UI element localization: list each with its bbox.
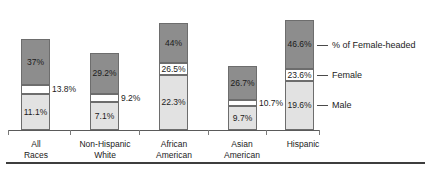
stacked-bar-chart: 37% 11.1% 13.8% 29.2% 7.1% 9.2% 44% 26.5… [0, 0, 431, 171]
x-axis-label-asian-american: Asian American [211, 139, 273, 161]
bar-segment-female-headed: 26.7% [228, 66, 257, 100]
axis-tick [266, 130, 267, 135]
legend-leader-line-female [317, 75, 328, 76]
bar-segment-male: 7.1% [90, 102, 119, 130]
bar-segment-male: 22.3% [159, 75, 188, 130]
axis-tick [208, 130, 209, 135]
bar-segment-female-headed: 37% [21, 39, 50, 85]
legend-label-female-headed: % of Female-headed [332, 41, 416, 50]
bar-segment-label-male: 22.3% [161, 98, 185, 107]
axis-tick [319, 130, 320, 135]
axis-tick [70, 130, 71, 135]
bar-segment-label-male: 7.1% [95, 112, 114, 121]
x-axis-line [8, 130, 320, 131]
bar-segment-female [21, 85, 50, 94]
x-axis-label-african-american: African American [143, 139, 205, 161]
bottom-divider-rule [6, 162, 425, 164]
bar-segment-female-headed: 46.6% [285, 20, 314, 69]
bar-segment-label-female: 26.5% [161, 65, 185, 74]
bar-segment-label-female-headed: 29.2% [92, 69, 116, 78]
bar-segment-label-female: 23.6% [287, 71, 311, 80]
bar-segment-label-male: 9.7% [233, 114, 252, 123]
axis-tick [139, 130, 140, 135]
legend-label-male: Male [332, 101, 352, 110]
bar-segment-label-female: 13.8% [52, 85, 76, 94]
bar-segment-label-female-headed: 44% [165, 39, 182, 48]
x-axis-label-hispanic: Hispanic [272, 139, 334, 150]
x-axis-label-all-races: All Races [6, 139, 66, 161]
bar-segment-label-male: 11.1% [24, 108, 47, 117]
bar-segment-male: 9.7% [228, 106, 257, 130]
axis-tick [8, 130, 9, 135]
bar-segment-label-female: 10.7% [259, 99, 283, 108]
bar-segment-female-headed: 44% [159, 23, 188, 63]
bar-segment-female [90, 94, 119, 102]
bar-segment-label-female: 9.2% [121, 94, 140, 103]
bar-segment-male: 19.6% [285, 81, 314, 130]
legend-label-female: Female [332, 71, 362, 80]
bar-segment-male: 11.1% [21, 94, 50, 130]
bar-segment-label-female-headed: 26.7% [230, 79, 254, 88]
legend-leader-line-male [317, 105, 328, 106]
x-axis-label-non-hispanic-white: Non-Hispanic White [70, 139, 140, 161]
bar-segment-label-female-headed: 46.6% [287, 40, 311, 49]
bar-segment-female: 23.6% [285, 69, 314, 81]
bar-segment-label-female-headed: 37% [27, 58, 44, 67]
legend-leader-line-female-headed [317, 45, 328, 46]
bar-segment-female-headed: 29.2% [90, 53, 119, 94]
bar-segment-label-male: 19.6% [287, 101, 311, 110]
bar-segment-female: 26.5% [159, 63, 188, 75]
